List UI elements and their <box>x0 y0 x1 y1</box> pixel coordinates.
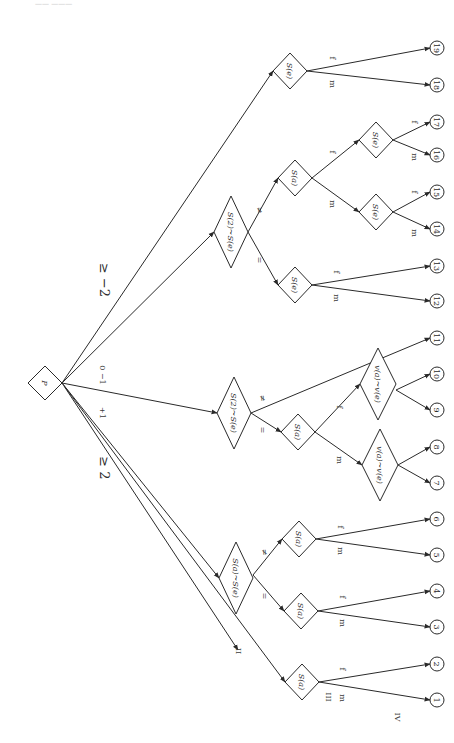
edge-label: m <box>338 694 347 702</box>
decision-node-label: S(a) <box>296 603 305 620</box>
edge-arrow <box>318 611 430 627</box>
decision-node-label: S(a) <box>297 674 306 691</box>
edge-arrow <box>62 383 217 413</box>
edge-label: f <box>332 271 341 275</box>
edge-arrow <box>62 383 285 682</box>
edge-arrow <box>307 48 430 71</box>
leaf-node-number: 13 <box>432 261 441 271</box>
decision-node-label: v(a)~v(e) <box>375 446 384 484</box>
root-node-label: P <box>40 379 49 386</box>
edge-label: f <box>338 596 347 600</box>
edge-arrow <box>251 338 430 413</box>
leaf-node-number: 18 <box>432 80 441 90</box>
edge-label: f <box>328 57 337 61</box>
leaf-node-number: 1 <box>432 697 441 702</box>
edge-arrow <box>398 447 430 465</box>
edge-label: m <box>328 200 337 208</box>
edge-arrow <box>396 374 430 390</box>
edge-label: ≠ <box>260 549 269 556</box>
leaf-node-number: 3 <box>432 624 441 629</box>
edge-arrow <box>393 212 430 229</box>
edge-label: = <box>258 427 267 434</box>
decision-node-label: S(a) <box>293 424 302 441</box>
edge-arrow <box>64 386 238 650</box>
edge-arrow <box>319 682 430 700</box>
decision-node-label: S(2)~S(e) <box>229 393 238 433</box>
leaf-node-number: 14 <box>432 224 441 234</box>
level-roman-label: IV <box>393 713 402 722</box>
leaves-layer: 19181716151413121110987654321 <box>430 41 444 707</box>
edge-arrow <box>316 519 430 539</box>
root-edge-label: +1 <box>98 407 107 419</box>
edge-arrow <box>312 266 430 285</box>
edge-arrow <box>312 285 430 301</box>
edge-arrow <box>393 122 430 140</box>
edge-label: f <box>410 121 419 125</box>
edge-arrow <box>398 465 430 483</box>
decision-node-label: S(a) <box>290 170 299 187</box>
leaf-node-number: 10 <box>432 369 441 379</box>
edge-label: = <box>260 593 269 600</box>
leaf-node-number: 12 <box>432 296 441 306</box>
leaf-node-number: 8 <box>432 444 441 449</box>
edge-label: f <box>410 191 419 195</box>
edge-arrow <box>62 383 219 578</box>
edge-label: f <box>328 151 337 155</box>
edge-label: ≠ <box>255 207 264 214</box>
edge-label: m <box>328 80 337 88</box>
edge-arrow <box>393 192 430 212</box>
page-header: —— ——— <box>35 0 72 8</box>
edge-label: m <box>410 153 419 161</box>
edge-label: f <box>336 526 345 530</box>
root-edge-label: ≥ 2 <box>97 456 112 479</box>
leaf-node-number: 11 <box>432 333 441 343</box>
root-edge-label: 0 −1 <box>98 365 107 384</box>
leaf-node-number: 6 <box>432 516 441 521</box>
decision-node-label: S(e) <box>371 132 380 148</box>
root-edge-label: ≥ −2 <box>97 263 112 297</box>
decision-node-label: S(a)~S(e) <box>231 558 240 598</box>
leaf-node-number: 16 <box>432 150 441 160</box>
edge-arrow <box>307 71 430 85</box>
edge-arrow <box>312 140 359 178</box>
edge-arrow <box>316 539 430 555</box>
edge-label: f <box>338 668 347 672</box>
edge-label: = <box>255 257 264 264</box>
edge-label: ≠ <box>258 395 267 402</box>
level-roman-label: III <box>324 692 333 701</box>
decision-tree-diagram: —— ——— PS(e)S(2)~S(e)S(a)S(e)S(e)S(e)S(2… <box>0 0 454 743</box>
decision-node-label: v(a)~v(e) <box>373 365 382 403</box>
decision-node-label: S(2)~S(e) <box>226 212 235 252</box>
leaf-node-number: 7 <box>432 480 441 485</box>
edge-arrow <box>319 664 430 682</box>
edge-arrow <box>318 591 430 611</box>
edge-label: m <box>410 229 419 237</box>
leaf-node-number: 5 <box>432 552 441 557</box>
edge-arrow <box>253 539 282 575</box>
leaf-node-number: 15 <box>432 187 441 197</box>
edge-label: m <box>335 456 344 464</box>
leaf-node-number: 2 <box>432 661 441 666</box>
leaf-node-number: 4 <box>432 588 441 593</box>
edge-arrow <box>62 232 214 383</box>
level-roman-label: II <box>234 648 243 654</box>
leaf-node-number: 9 <box>432 407 441 412</box>
leaf-node-number: 19 <box>432 43 441 53</box>
leaf-node-number: 17 <box>432 117 441 127</box>
decision-node-label: S(e) <box>290 277 299 293</box>
edge-arrow <box>248 178 278 232</box>
nodes-layer: PS(e)S(2)~S(e)S(a)S(e)S(e)S(e)S(2)~S(e)S… <box>28 53 398 700</box>
edge-label: m <box>332 294 341 302</box>
edge-label: m <box>338 619 347 627</box>
edge-arrow <box>396 390 430 410</box>
decision-node-label: S(e) <box>371 204 380 220</box>
decision-node-label: S(e) <box>285 63 294 79</box>
edge-label: m <box>336 547 345 555</box>
decision-node-label: S(a) <box>294 531 303 548</box>
